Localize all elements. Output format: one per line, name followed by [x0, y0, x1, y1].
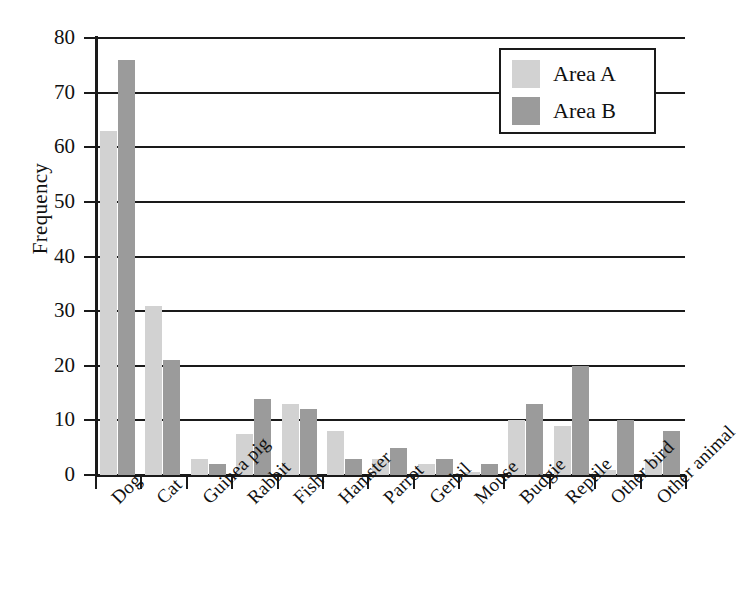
bar — [209, 464, 226, 475]
x-tick-mark — [186, 476, 188, 489]
bar — [526, 404, 543, 475]
x-tick-mark — [685, 476, 687, 489]
bar — [100, 131, 117, 475]
bar-group — [143, 38, 188, 475]
legend: Area A Area B — [499, 48, 656, 134]
bar — [572, 366, 589, 475]
y-tick-mark-20 — [84, 365, 95, 367]
legend-item-area-b: Area B — [512, 94, 616, 128]
x-axis-ticks — [95, 476, 685, 490]
x-tick-mark — [322, 476, 324, 489]
bar — [372, 459, 389, 475]
x-tick-mark — [231, 476, 233, 489]
bar — [463, 472, 480, 475]
bar-group — [370, 38, 415, 475]
y-tick-mark-60 — [84, 146, 95, 148]
y-tick-label-50: 50 — [29, 191, 75, 212]
y-tick-label-40: 40 — [29, 246, 75, 267]
bar — [481, 464, 498, 475]
bar — [663, 431, 680, 475]
y-tick-label-20: 20 — [29, 355, 75, 376]
legend-swatch-area-b — [512, 97, 540, 125]
y-tick-mark-50 — [84, 201, 95, 203]
x-tick-mark — [458, 476, 460, 489]
bar-group — [280, 38, 325, 475]
bar — [345, 459, 362, 475]
y-tick-label-70: 70 — [29, 82, 75, 103]
x-tick-mark — [367, 476, 369, 489]
bar — [599, 470, 616, 475]
legend-label-area-a: Area A — [553, 63, 616, 85]
bar — [145, 306, 162, 475]
bar — [191, 459, 208, 475]
y-tick-label-0: 0 — [29, 464, 75, 485]
x-tick-mark — [413, 476, 415, 489]
legend-label-area-b: Area B — [553, 100, 616, 122]
y-tick-label-80: 80 — [29, 27, 75, 48]
bar — [554, 426, 571, 475]
bar — [418, 464, 435, 475]
x-tick-mark — [95, 476, 97, 489]
y-tick-mark-30 — [84, 310, 95, 312]
x-tick-mark — [640, 476, 642, 489]
y-tick-mark-70 — [84, 92, 95, 94]
bar-group — [234, 38, 279, 475]
y-tick-mark-0 — [84, 474, 95, 476]
bar — [300, 409, 317, 475]
bar — [508, 420, 525, 475]
x-tick-mark — [140, 476, 142, 489]
bar — [236, 434, 253, 475]
bar-group — [189, 38, 234, 475]
y-tick-mark-10 — [84, 419, 95, 421]
y-tick-mark-80 — [84, 37, 95, 39]
bar — [436, 459, 453, 475]
x-tick-mark — [277, 476, 279, 489]
bar-group — [98, 38, 143, 475]
x-tick-mark — [594, 476, 596, 489]
bar — [254, 399, 271, 475]
bar — [617, 420, 634, 475]
legend-item-area-a: Area A — [512, 57, 616, 91]
bar — [282, 404, 299, 475]
bar — [163, 360, 180, 475]
legend-swatch-area-a — [512, 60, 540, 88]
y-tick-label-10: 10 — [29, 409, 75, 430]
bar-group — [416, 38, 461, 475]
bar — [118, 60, 135, 475]
bar — [327, 431, 344, 475]
y-tick-label-60: 60 — [29, 136, 75, 157]
y-tick-label-30: 30 — [29, 300, 75, 321]
x-tick-mark — [549, 476, 551, 489]
bar-group — [325, 38, 370, 475]
x-tick-mark — [503, 476, 505, 489]
bar — [390, 448, 407, 475]
bar — [645, 459, 662, 475]
y-tick-mark-40 — [84, 256, 95, 258]
